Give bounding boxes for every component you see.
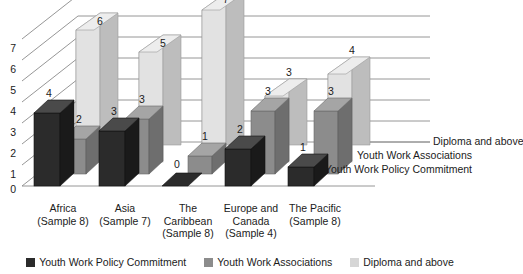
y-tick-4: 4 [2,106,16,116]
value-label-pacific-policy: 1 [295,142,311,152]
value-label-asia-associations: 3 [134,94,150,104]
value-label-caribbean-associations: 1 [197,131,213,141]
value-label-asia-diploma: 5 [155,38,171,48]
value-label-pacific-diploma: 4 [344,45,360,55]
y-tick-3: 3 [2,127,16,137]
y-tick-6: 6 [2,64,16,74]
value-label-caribbean-diploma: 7 [218,0,234,4]
bar-asia-policy [99,118,139,186]
y-tick-7: 7 [2,43,16,53]
y-tick-2: 2 [2,148,16,158]
series-label-associations: Youth Work Associations [357,150,472,161]
value-label-asia-policy: 3 [106,106,122,116]
y-tick-1: 1 [2,169,16,179]
legend-label-associations: Youth Work Associations [217,256,332,268]
category-line-3: (Sample 4) [208,227,294,240]
y-tick-5: 5 [2,85,16,95]
value-label-europe-associations: 3 [260,86,276,96]
value-label-caribbean-policy: 0 [169,159,185,169]
value-label-africa-diploma: 6 [92,16,108,26]
category-line-1: The Pacific [272,202,358,215]
category-label-pacific: The Pacific (Sample 8) [272,202,358,227]
legend-item-associations[interactable]: Youth Work Associations [204,256,332,268]
chart-legend: Youth Work Policy Commitment Youth Work … [0,252,480,272]
series-label-policy: Youth Work Policy Commitment [325,164,472,175]
legend-swatch-policy-icon [26,258,35,267]
x-axis-categories: Africa (Sample 8) Asia (Sample 7) The Ca… [0,198,480,246]
bar-caribbean-associations [188,143,226,174]
value-label-africa-associations: 2 [71,114,87,124]
legend-item-diploma[interactable]: Diploma and above [350,256,453,268]
value-label-europe-policy: 2 [232,124,248,134]
category-line-2: (Sample 8) [272,215,358,228]
bar-africa-policy [34,100,74,186]
y-tick-0: 0 [2,184,16,194]
legend-swatch-diploma-icon [350,258,359,267]
legend-item-policy[interactable]: Youth Work Policy Commitment [26,256,186,268]
legend-label-diploma: Diploma and above [363,256,453,268]
value-label-europe-diploma: 3 [281,67,297,77]
value-label-pacific-associations: 3 [323,86,339,96]
series-label-diploma: Diploma and above [433,136,523,147]
legend-swatch-associations-icon [204,258,213,267]
value-label-africa-policy: 4 [41,88,57,98]
legend-label-policy: Youth Work Policy Commitment [39,256,186,268]
plot-area: 7 6 5 4 3 2 1 0 4 2 6 3 3 5 0 1 7 2 3 3 … [0,0,480,200]
bar-pacific-policy [288,154,328,186]
bar-europe-policy [225,136,265,186]
bar-caribbean-policy [162,173,202,186]
